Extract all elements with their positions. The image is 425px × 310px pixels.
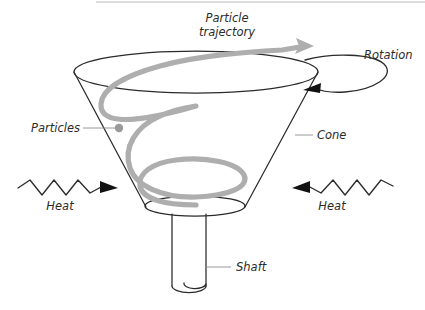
diagram-canvas: Particle trajectory Rotation Particles C… [0, 0, 425, 310]
particle-blob [115, 124, 123, 132]
label-particles: Particles [31, 121, 80, 135]
rotation-arrowhead [303, 83, 321, 93]
label-particle-trajectory-line1: Particle [205, 11, 248, 25]
heat-left-group [18, 180, 118, 195]
label-cone: Cone [317, 128, 346, 142]
label-heat-right: Heat [318, 199, 346, 213]
trajectory-spiral [101, 47, 300, 205]
shaft-bottom-inner-ellipse [184, 283, 206, 289]
label-heat-left: Heat [46, 199, 74, 213]
cone-particle-diagram: Particle trajectory Rotation Particles C… [0, 0, 425, 310]
heat-left-wave [18, 180, 103, 195]
cone-group [74, 51, 318, 216]
label-rotation: Rotation [364, 48, 413, 62]
heat-right-group [292, 180, 393, 195]
label-particle-trajectory-line2: trajectory [199, 25, 255, 39]
shaft-group [172, 214, 206, 293]
shaft-bottom-cap [172, 286, 206, 293]
heat-right-arrowhead [292, 181, 310, 193]
label-shaft: Shaft [236, 260, 267, 274]
heat-left-arrowhead [100, 181, 118, 193]
heat-right-wave [308, 180, 393, 195]
particle-trajectory-path [101, 38, 314, 205]
